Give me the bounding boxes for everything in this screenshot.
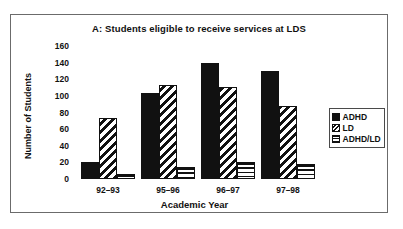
- bar-adhd-ld-95-96: [177, 167, 195, 179]
- bar-adhd-96-97: [201, 63, 219, 179]
- y-tick-label: 120: [31, 74, 69, 84]
- x-axis-line: [73, 179, 316, 180]
- y-axis-tick-labels: 020406080100120140160: [31, 46, 69, 179]
- chart-legend: ADHDLDADHD/LD: [329, 108, 385, 148]
- x-tick-label: 95–96: [156, 185, 180, 195]
- y-tick-label: 100: [31, 91, 69, 101]
- legend-item-label: ADHD: [343, 112, 368, 122]
- bar-group: [201, 46, 255, 179]
- y-tick-label: 40: [31, 141, 69, 151]
- y-tick-label: 20: [31, 157, 69, 167]
- bar-adhd-97-98: [261, 71, 279, 179]
- y-tick-label: 80: [31, 108, 69, 118]
- bar-ld-96-97: [219, 87, 237, 179]
- plot-area: [73, 46, 313, 179]
- bar-group: [261, 46, 315, 179]
- x-axis-tick-labels: 92–9395–9696–9797–98: [73, 185, 316, 199]
- legend-item-adhd: ADHD: [332, 111, 381, 122]
- x-tick-label: 97–98: [276, 185, 300, 195]
- bar-ld-95-96: [159, 85, 177, 179]
- bar-ld-97-98: [279, 106, 297, 179]
- bar-adhd-92-93: [81, 162, 99, 179]
- legend-item-ld: LD: [332, 122, 381, 133]
- diagonal-hatch-swatch: [332, 124, 340, 132]
- x-tick-label: 96–97: [216, 185, 240, 195]
- x-axis-title: Academic Year: [73, 199, 316, 210]
- y-tick-label: 0: [31, 174, 69, 184]
- legend-item-label: ADHD/LD: [343, 134, 381, 144]
- legend-item-label: LD: [343, 123, 354, 133]
- chart-figure-frame: A: Students eligible to receive services…: [10, 14, 388, 213]
- bar-group: [81, 46, 135, 179]
- x-tick-label: 92–93: [96, 185, 120, 195]
- legend-item-adhd-ld: ADHD/LD: [332, 133, 381, 144]
- horizontal-stripe-swatch: [332, 135, 340, 143]
- bar-adhd-ld-97-98: [297, 164, 315, 179]
- bar-adhd-95-96: [141, 93, 159, 179]
- bar-group: [141, 46, 195, 179]
- y-tick-label: 140: [31, 58, 69, 68]
- chart-title: A: Students eligible to receive services…: [11, 23, 387, 34]
- y-tick-label: 160: [31, 41, 69, 51]
- bar-adhd-ld-96-97: [237, 162, 255, 179]
- y-tick-label: 60: [31, 124, 69, 134]
- bar-ld-92-93: [99, 118, 117, 180]
- solid-black-swatch: [332, 113, 340, 121]
